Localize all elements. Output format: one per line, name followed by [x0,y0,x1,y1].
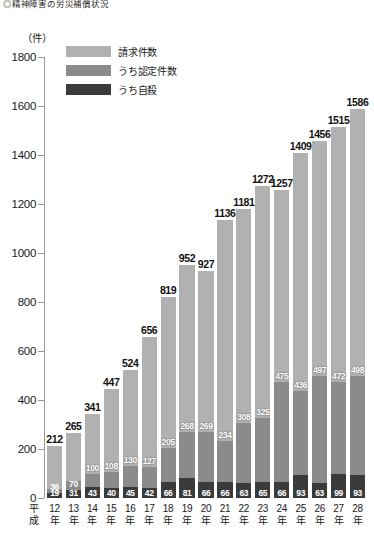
bar-group: 151547299 [331,127,346,498]
x-axis-label: 28年 [348,503,367,526]
bar-group: 52413045 [123,370,138,498]
bar-group: 92726966 [198,271,213,498]
bar-value-suicide: 65 [258,488,267,498]
bar-value-claims: 1456 [309,128,331,140]
y-axis-tick-label: 200 [0,443,36,455]
bar-group: 125747566 [274,190,289,498]
bar-group: 65612742 [142,337,157,498]
x-axis-label: 26年 [310,503,329,526]
x-axis-label: 15年 [102,503,121,526]
bar-value-certified: 472 [332,371,345,381]
y-axis-tick [38,106,44,107]
bar-value-suicide: 99 [334,488,343,498]
legend-item-claims: 請求件数 [66,45,177,58]
x-axis-label: 17年 [140,503,159,526]
x-axis-year-suffix: 年 [50,515,60,526]
bar-value-suicide: 66 [221,488,230,498]
bar-value-suicide: 19 [50,488,59,498]
x-axis-year-suffix: 年 [201,515,211,526]
bar-value-certified: 108 [105,461,118,471]
bar-value-claims: 1515 [328,114,350,126]
bar-value-suicide: 66 [164,488,173,498]
legend-swatch-certified [66,65,111,76]
x-axis-year-number: 22 [239,503,250,514]
bar-group: 34110043 [85,414,100,498]
y-axis-tick-label: 1000 [0,247,36,259]
y-axis-tick-label: 1200 [0,198,36,210]
x-axis-label: 19年 [178,503,197,526]
bar-value-suicide: 66 [202,488,211,498]
x-axis-year-number: 18 [163,503,174,514]
x-axis-label: 27年 [329,503,348,526]
x-axis-year-suffix: 年 [334,515,344,526]
bar-value-claims: 927 [198,258,214,270]
x-axis-year-number: 23 [258,503,269,514]
bar-group: 140943693 [293,153,308,498]
bar-group: 158649893 [350,109,365,498]
bar-value-certified: 498 [351,365,364,375]
bar-group: 145649763 [312,141,327,498]
x-axis-label: 13年 [64,503,83,526]
x-axis-year-number: 24 [276,503,287,514]
bar-value-suicide: 43 [88,488,97,498]
x-axis-year-suffix: 年 [182,515,192,526]
bar-value-certified: 497 [313,365,326,375]
x-axis-year-number: 25 [295,503,306,514]
x-axis-label: 16年 [121,503,140,526]
x-axis-year-suffix: 年 [296,515,306,526]
bar-group: 2123619 [47,446,62,498]
bar-value-certified: 325 [256,407,269,417]
bar-value-certified: 127 [143,456,156,466]
bar-value-suicide: 63 [315,488,324,498]
y-axis-tick-label: 1600 [0,100,36,112]
y-axis-line [44,57,45,498]
bar-value-claims: 265 [65,420,81,432]
bar-group: 2657031 [66,433,81,498]
x-axis-year-suffix: 年 [315,515,325,526]
bar-group: 127232565 [255,186,270,498]
bar-value-claims: 819 [160,284,176,296]
bar-value-certified: 269 [199,421,212,431]
x-axis-year-suffix: 年 [277,515,287,526]
x-axis-year-suffix: 年 [87,515,97,526]
x-axis-year-suffix: 年 [239,515,249,526]
bar-value-suicide: 93 [353,488,362,498]
y-axis-tick [38,155,44,156]
y-axis-tick-label: 600 [0,345,36,357]
legend-label-suicide: うち自殺 [118,82,157,97]
x-axis-year-suffix: 年 [258,515,268,526]
bar-value-suicide: 40 [107,488,116,498]
x-axis-year-suffix: 年 [106,515,116,526]
x-axis-label: 18年 [159,503,178,526]
y-axis-tick [38,57,44,58]
x-axis-year-number: 19 [182,503,193,514]
x-axis-year-suffix: 年 [220,515,230,526]
x-axis-year-number: 20 [201,503,212,514]
y-axis-tick-label: 1800 [0,51,36,63]
y-axis-tick-label: 400 [0,394,36,406]
bar-group: 44710840 [104,389,119,499]
bar-value-certified: 268 [181,421,194,431]
legend-label-certified: うち認定件数 [118,63,177,78]
era-char-2: 成 [29,515,39,526]
y-axis-tick [38,351,44,352]
y-axis-tick [38,498,44,499]
bar-group: 113623466 [217,220,232,498]
bar-value-claims: 1181 [233,196,254,208]
bar-value-suicide: 66 [277,488,286,498]
y-axis-tick [38,449,44,450]
bar-value-suicide: 45 [126,488,135,498]
bar-value-certified: 475 [275,371,288,381]
bar-value-claims: 524 [122,357,138,369]
x-axis-label: 23年 [253,503,272,526]
x-axis-year-suffix: 年 [125,515,135,526]
bar-value-suicide: 81 [183,488,192,498]
bar-value-claims: 1409 [290,140,312,152]
y-axis-tick [38,400,44,401]
y-axis-tick [38,302,44,303]
x-axis-year-number: 26 [314,503,325,514]
bar-segment-certified [312,376,327,498]
x-axis-label: 24年 [272,503,291,526]
x-axis-year-number: 28 [352,503,363,514]
x-axis-label: 22年 [234,503,253,526]
